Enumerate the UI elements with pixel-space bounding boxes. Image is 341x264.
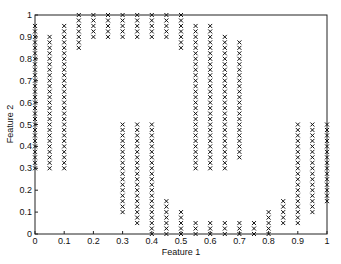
y-axis-label: Feature 2 <box>5 105 15 144</box>
y-tick-label: 0.8 <box>19 54 32 64</box>
x-tick-label: 0.9 <box>292 236 305 246</box>
y-tick-label: 0 <box>27 229 32 239</box>
y-tick-label: 0.9 <box>19 32 32 42</box>
x-tick-label: 0.4 <box>146 236 159 246</box>
x-axis: 00.10.20.30.40.50.60.70.80.91 <box>32 231 329 246</box>
scatter-chart: 00.10.20.30.40.50.60.70.80.91 00.10.20.3… <box>0 0 341 264</box>
x-tick-label: 0.6 <box>204 236 217 246</box>
x-axis-label: Feature 1 <box>162 247 201 257</box>
x-tick-label: 0.3 <box>116 236 129 246</box>
x-tick-label: 0.8 <box>262 236 275 246</box>
x-tick-label: 1 <box>324 236 329 246</box>
y-tick-label: 0.7 <box>19 76 32 86</box>
x-tick-label: 0 <box>32 236 37 246</box>
y-tick-label: 0.2 <box>19 185 32 195</box>
x-tick-label: 0.1 <box>58 236 71 246</box>
x-tick-label: 0.7 <box>233 236 246 246</box>
y-tick-label: 0.1 <box>19 207 32 217</box>
x-tick-label: 0.5 <box>175 236 188 246</box>
y-tick-label: 0.5 <box>19 120 32 130</box>
y-tick-label: 1 <box>27 10 32 20</box>
y-tick-label: 0.6 <box>19 98 32 108</box>
data-points <box>33 13 329 236</box>
x-tick-label: 0.2 <box>87 236 100 246</box>
y-tick-label: 0.3 <box>19 163 32 173</box>
y-tick-label: 0.4 <box>19 141 32 151</box>
